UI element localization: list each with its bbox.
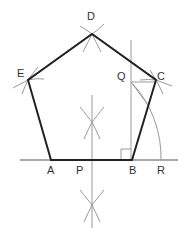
label-e: E xyxy=(17,67,24,79)
arc-d-upper xyxy=(80,24,104,34)
label-d: D xyxy=(87,10,95,22)
label-r: R xyxy=(157,164,165,176)
label-b: B xyxy=(129,164,136,176)
arc-q-to-r xyxy=(133,84,161,160)
label-c: C xyxy=(157,70,165,82)
label-p: P xyxy=(76,164,83,176)
arc-d-lower xyxy=(83,34,101,52)
label-q: Q xyxy=(117,70,126,82)
label-a: A xyxy=(47,164,55,176)
pentagon-construction-diagram: D E C Q A P B R xyxy=(0,0,184,231)
right-angle-mark xyxy=(121,149,131,160)
